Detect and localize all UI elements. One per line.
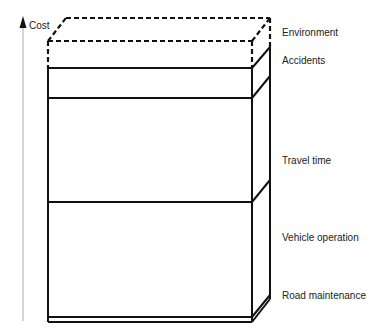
solid-blocks [48, 47, 270, 322]
environment-block [48, 18, 270, 68]
axis-label-cost: Cost [29, 20, 50, 31]
label-travel-time: Travel time [282, 155, 331, 166]
label-road-maintenance: Road maintenance [282, 290, 366, 301]
label-environment: Environment [282, 27, 338, 38]
cost-axis [20, 16, 27, 321]
label-accidents: Accidents [282, 55, 325, 66]
label-vehicle-operation: Vehicle operation [282, 232, 359, 243]
stacked-cost-diagram [0, 0, 373, 334]
